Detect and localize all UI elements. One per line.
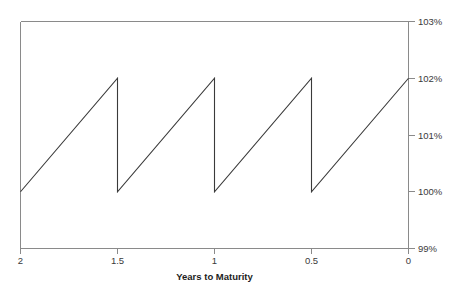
x-tick-labels: 2 1.5 1 0.5 0 xyxy=(18,255,411,266)
y-tick-label-99: 99% xyxy=(418,243,438,254)
series-line-dirty-price xyxy=(21,78,409,192)
y-tick-label-102: 102% xyxy=(418,73,443,84)
x-tick-label-0.5: 0.5 xyxy=(305,255,318,266)
y-tick-label-100: 100% xyxy=(418,186,443,197)
y-tick-marks xyxy=(409,22,415,249)
chart-container: 103% 102% 101% 100% 99% 2 1.5 1 0.5 0 Ye… xyxy=(0,0,456,296)
sawtooth-price-chart: 103% 102% 101% 100% 99% 2 1.5 1 0.5 0 Ye… xyxy=(0,0,456,296)
y-tick-label-103: 103% xyxy=(418,16,443,27)
y-tick-label-101: 101% xyxy=(418,130,443,141)
x-axis-title: Years to Maturity xyxy=(176,271,253,282)
x-tick-label-0.0: 0 xyxy=(406,255,411,266)
x-tick-label-1.0: 1 xyxy=(212,255,217,266)
x-tick-marks xyxy=(21,249,409,254)
y-tick-labels: 103% 102% 101% 100% 99% xyxy=(418,16,443,254)
series-group xyxy=(21,78,409,192)
x-tick-label-1.5: 1.5 xyxy=(111,255,124,266)
x-tick-label-2.0: 2 xyxy=(18,255,23,266)
